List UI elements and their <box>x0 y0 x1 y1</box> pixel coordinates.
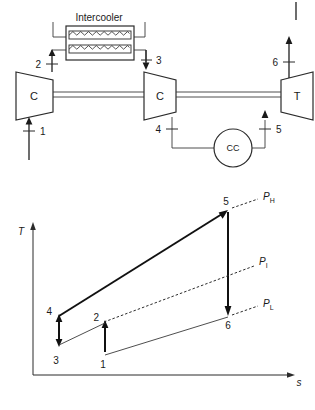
ts-point-label-1: 1 <box>100 359 106 370</box>
ts-point-label-2: 2 <box>93 312 99 323</box>
ts-diagram: T s <box>18 191 302 388</box>
state-label-4: 4 <box>155 124 161 135</box>
state-label-3: 3 <box>156 55 162 66</box>
turbine-label: T <box>294 90 301 102</box>
isobar-label-pl: PL <box>263 298 274 311</box>
ts-point-label-5: 5 <box>223 196 229 207</box>
ts-axis-x-label: s <box>297 377 302 388</box>
ts-point-label-4: 4 <box>46 306 52 317</box>
process-2-to-3 <box>59 323 105 345</box>
isobar-pl-extension <box>232 306 258 315</box>
state-label-1: 1 <box>40 126 46 137</box>
pipe-cc-to-turbine <box>252 120 265 148</box>
svg-text:PI: PI <box>259 256 268 269</box>
svg-text:PH: PH <box>263 191 275 204</box>
technical-figure: Intercooler 2 <box>0 0 315 410</box>
isobar-pi-sub: I <box>266 262 268 269</box>
process-4-to-5 <box>59 210 228 316</box>
isobar-label-pi: PI <box>259 256 268 269</box>
flow-arrow-2 <box>49 49 56 72</box>
isobar-label-ph: PH <box>263 191 275 204</box>
flow-arrow-1 <box>26 117 33 160</box>
flow-arrow-5 <box>262 110 269 118</box>
isobar-ph-sub: H <box>270 197 275 204</box>
state-label-2: 2 <box>35 59 41 70</box>
process-1-to-2 <box>102 320 109 352</box>
shaft-hp-to-turbine <box>176 92 281 97</box>
state-label-5: 5 <box>276 124 282 135</box>
isobar-pl-sub: L <box>270 304 274 311</box>
svg-text:PL: PL <box>263 298 274 311</box>
process-3-to-4 <box>56 314 63 347</box>
ts-axis-y <box>30 222 36 375</box>
intercooler-body <box>66 26 134 60</box>
ts-point-label-3: 3 <box>53 355 59 366</box>
intercooler-label: Intercooler <box>75 12 123 23</box>
compressor-lp-label: C <box>30 90 38 102</box>
shaft-lp-to-hp <box>53 92 144 97</box>
ts-point-label-6: 6 <box>225 320 231 331</box>
combustion-chamber-label: CC <box>227 143 240 153</box>
schematic-diagram: Intercooler 2 <box>16 2 313 167</box>
process-6-to-1 <box>105 317 228 355</box>
flow-arrow-6 <box>286 36 293 78</box>
ts-axis-x <box>33 372 295 378</box>
figure-root: Intercooler 2 <box>0 0 315 410</box>
process-5-to-6 <box>225 212 232 316</box>
ts-axis-y-label: T <box>18 226 25 237</box>
state-label-6: 6 <box>272 57 278 68</box>
pipe-4-to-cc <box>172 117 214 148</box>
compressor-hp-label: C <box>156 90 164 102</box>
isobar-ph-extension <box>232 199 258 208</box>
